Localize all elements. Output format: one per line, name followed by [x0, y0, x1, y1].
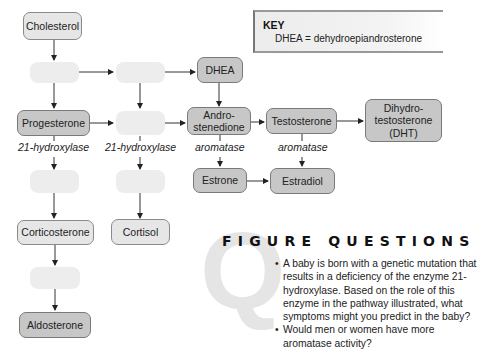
enzyme-aromatase-2: aromatase [278, 141, 328, 153]
enzyme-21-hydroxylase-2: 21-hydroxylase [105, 141, 176, 153]
node-androstenedione-line2: stenedione [193, 121, 244, 133]
figure-questions-title: FIGURE QUESTIONS [222, 233, 475, 249]
enzyme-21-hydroxylase-1: 21-hydroxylase [18, 141, 89, 153]
question-item: Would men or women have more aromatase a… [275, 323, 485, 350]
node-dht: Dihydro- testosterone (DHT) [365, 99, 442, 142]
node-blank-intermediate-4 [30, 170, 79, 193]
node-cortisol-label: Cortisol [123, 226, 159, 238]
node-estradiol-label: Estradiol [282, 175, 323, 187]
node-corticosterone-label: Corticosterone [21, 226, 89, 238]
enzyme-aromatase-1: aromatase [195, 141, 245, 153]
node-estrone: Estrone [193, 168, 247, 193]
node-blank-intermediate-5 [116, 170, 165, 193]
node-cholesterol: Cholesterol [23, 12, 82, 40]
node-cortisol: Cortisol [111, 219, 170, 245]
node-dht-line1: Dihydro- [384, 102, 424, 114]
figure-questions-list: A baby is born with a genetic mutation t… [275, 257, 485, 350]
key-entry: DHEA = dehydroepiandrosterone [263, 33, 435, 44]
node-cholesterol-label: Cholesterol [26, 20, 79, 32]
node-dhea: DHEA [197, 57, 243, 83]
node-blank-intermediate-1 [30, 62, 79, 83]
node-estrone-label: Estrone [202, 174, 238, 186]
node-blank-intermediate-2 [116, 62, 165, 83]
node-testosterone-label: Testosterone [271, 115, 331, 127]
node-blank-intermediate-6 [30, 267, 80, 289]
node-dht-line2: testosterone [375, 114, 433, 126]
key-box: KEY DHEA = dehydroepiandrosterone [253, 10, 443, 53]
node-aldosterone-label: Aldosterone [27, 319, 83, 331]
node-progesterone: Progesterone [17, 110, 90, 136]
node-androstenedione: Andro- stenedione [187, 107, 251, 135]
key-title: KEY [263, 19, 435, 31]
q-watermark-icon: Q [200, 215, 286, 325]
node-progesterone-label: Progesterone [22, 117, 85, 129]
question-item: A baby is born with a genetic mutation t… [275, 257, 485, 323]
node-testosterone: Testosterone [266, 108, 337, 134]
node-estradiol: Estradiol [270, 168, 335, 194]
node-corticosterone: Corticosterone [17, 220, 94, 245]
node-blank-intermediate-3 [116, 111, 165, 135]
node-dht-line3: (DHT) [389, 127, 418, 139]
node-aldosterone: Aldosterone [19, 312, 91, 338]
node-androstenedione-line1: Andro- [203, 109, 235, 121]
node-dhea-label: DHEA [205, 64, 234, 76]
